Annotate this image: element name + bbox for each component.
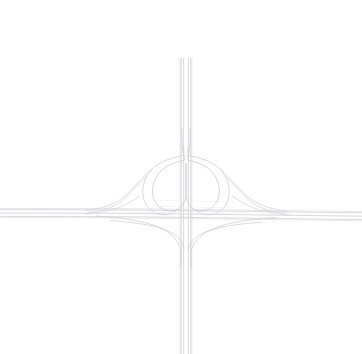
interchange-canvas	[0, 0, 362, 354]
interchange-diagram	[0, 0, 362, 354]
